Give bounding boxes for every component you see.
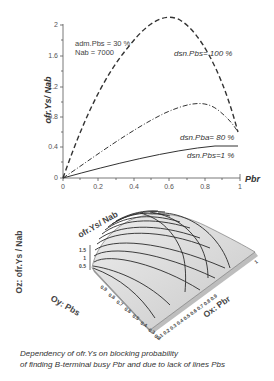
y-tick-0: 0	[54, 174, 58, 181]
x-tick-0.6: 0.6	[164, 183, 174, 190]
x-tick-0.2: 0.2	[93, 183, 103, 190]
svg-text:1: 1	[253, 258, 259, 265]
y-axis-label-pbs: Oy: Pbs	[49, 293, 82, 318]
figure-caption: Dependency of ofr.Ys on blocking probabi…	[20, 348, 225, 370]
z-tick-1: 1	[83, 255, 86, 261]
y-tick-2: 2	[54, 21, 58, 28]
x-axis-label: Pbr	[245, 174, 261, 184]
label-dsn-pbs-100: dsn.Pbs= 100 %	[174, 49, 232, 58]
caption-line-2: of finding B-terminal busy Pbr and due t…	[20, 359, 225, 370]
x-tick-0: 0	[61, 183, 65, 190]
x-tick-0.4: 0.4	[129, 183, 139, 190]
label-dsn-pbs-1: dsn.Pbs=1 %	[187, 151, 234, 160]
x-tick-1: 1	[238, 183, 242, 190]
line-chart: 0 0.4 0.8 1.2 1.6 2 0 0.2 0.4 0.6 0.8 1 …	[43, 17, 261, 190]
y-tick-1.6: 1.6	[48, 52, 58, 59]
annotation-adm-pbs: adm.Pbs = 30 %	[75, 39, 131, 48]
caption-line-1: Dependency of ofr.Ys on blocking probabi…	[20, 348, 225, 359]
z-tick-1.5: 1.5	[79, 247, 86, 253]
figure: 0 0.4 0.8 1.2 1.6 2 0 0.2 0.4 0.6 0.8 1 …	[0, 0, 274, 381]
y-tick-0.4: 0.4	[48, 143, 58, 150]
y-axis-label: ofr.Ys/ Nab	[43, 76, 53, 124]
z-tick-0.5: 0.5	[79, 263, 86, 269]
x-tick-0.8: 0.8	[200, 183, 210, 190]
label-dsn-pba-80: dsn.Pba= 80 %	[180, 133, 234, 142]
annotation-nab: Nab = 7000	[75, 48, 114, 57]
surface-chart: 1.5 1 0.5 0.9 0.8 0.7 0.6 0.5 0.4 0.3 0.…	[14, 209, 259, 342]
z-axis-label: Oz: ofr.Ys / Nab	[14, 231, 24, 294]
